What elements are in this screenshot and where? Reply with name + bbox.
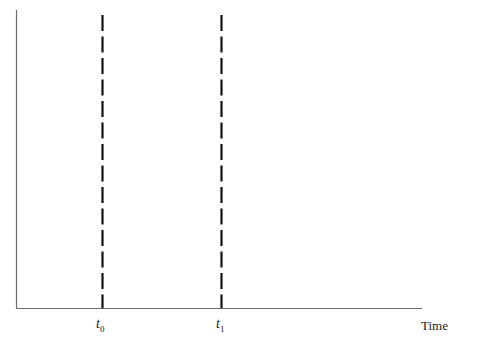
marker-label-t0: t0 [96, 316, 104, 334]
timeline-diagram [0, 0, 479, 353]
x-axis-label: Time [421, 318, 448, 334]
marker-label-t1: t1 [216, 316, 224, 334]
